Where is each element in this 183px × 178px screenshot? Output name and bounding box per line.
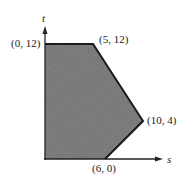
vertex-label-5-12: (5, 12) (99, 34, 128, 45)
t-axis-arrow-icon (43, 26, 48, 34)
s-axis-label: s (167, 154, 171, 165)
s-axis-arrow-icon (155, 157, 163, 162)
t-axis-label: t (42, 13, 45, 24)
vertex-label-6-0: (6, 0) (92, 163, 116, 174)
vertex-label-10-4: (10, 4) (147, 115, 176, 126)
vertex-label-0-12: (0, 12) (11, 38, 40, 49)
region-plot (0, 0, 183, 178)
